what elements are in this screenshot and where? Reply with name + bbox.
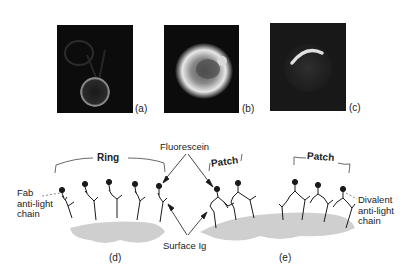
divalent-leader <box>346 193 357 199</box>
panel-d-label: (d) <box>109 252 121 263</box>
fluorescein-label: Fluorescein <box>160 142 209 153</box>
fab-label-line1: Fab <box>17 188 53 199</box>
divalent-label-line3: chain <box>358 216 394 227</box>
divalent-label-line1: Divalent <box>358 195 394 206</box>
antibody-diagram <box>0 0 413 277</box>
divalent-anti-light-chain-label: Divalent anti-light chain <box>358 195 394 227</box>
ring-label: Ring <box>97 153 119 164</box>
fab-anti-light-chain-label: Fab anti-light chain <box>17 188 53 220</box>
antibodies-d <box>59 179 167 222</box>
surface-ig-arrows <box>168 204 207 235</box>
fluorescein-arrows <box>163 154 213 187</box>
surface-ig-label: Surface Ig <box>163 241 206 252</box>
fab-label-line3: chain <box>17 209 53 220</box>
patch-label-2: Patch <box>307 151 335 163</box>
membrane-d <box>70 222 165 243</box>
membrane-e <box>200 213 355 241</box>
panel-e-label: (e) <box>279 252 291 263</box>
